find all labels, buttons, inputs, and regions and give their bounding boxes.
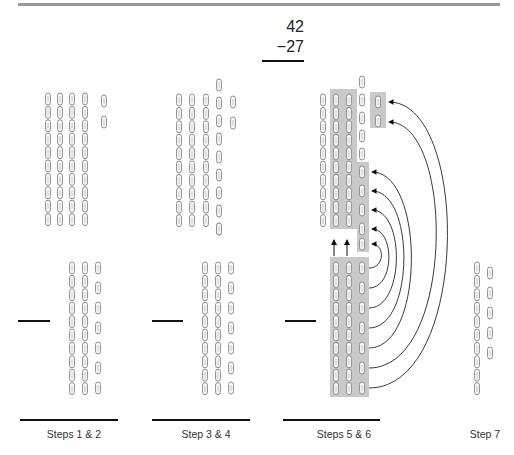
group-3-bottom <box>334 262 365 395</box>
group-1-top-tens <box>46 93 88 226</box>
up-arrows <box>334 240 347 256</box>
rule-1 <box>20 419 118 421</box>
group-4-result <box>475 262 493 395</box>
group-2-top <box>177 79 236 235</box>
group-1-top-ones <box>102 95 107 128</box>
group-3-top <box>321 76 381 250</box>
rule-3 <box>283 419 380 421</box>
paperclip-diagram <box>0 0 514 455</box>
step-label-2: Step 3 & 4 <box>152 428 260 440</box>
group-1-bottom <box>70 262 101 395</box>
step-label-1: Steps 1 & 2 <box>20 428 128 440</box>
step-label-4: Step 7 <box>455 428 514 440</box>
step-label-3: Steps 5 & 6 <box>290 428 398 440</box>
rule-2 <box>152 419 250 421</box>
group-2-bottom <box>203 262 234 395</box>
matching-arrows <box>369 102 447 388</box>
